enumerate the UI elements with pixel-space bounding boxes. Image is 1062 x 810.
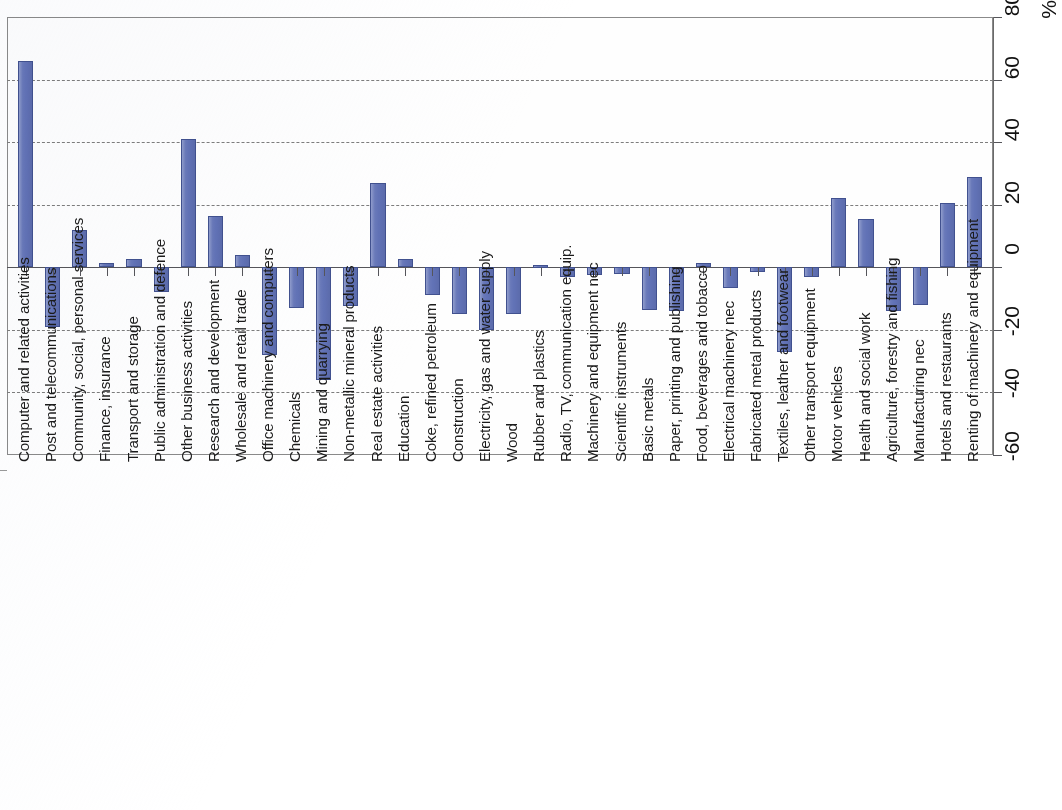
category-label: Scientific instruments (612, 322, 627, 462)
category-label: Office machinery and computers (260, 248, 275, 462)
category-tick (188, 267, 189, 276)
category-label: Fabricated metal products (748, 290, 763, 462)
category-label: Basic metals (640, 378, 655, 462)
category-tick (459, 267, 460, 276)
bar (940, 203, 955, 267)
category-tick (730, 267, 731, 276)
category-label: Radio, TV, communication equip. (558, 245, 573, 462)
category-tick (541, 267, 542, 276)
category-label: Finance, insurance (97, 336, 112, 462)
y-axis-spine (993, 17, 994, 455)
bar (126, 259, 141, 267)
category-label: Non-metallic mineral products (341, 265, 356, 462)
category-tick (215, 267, 216, 276)
category-tick (405, 267, 406, 276)
category-tick (920, 267, 921, 276)
category-label: Health and social work (856, 313, 871, 463)
y-axis-tick-label: 60 (1000, 56, 1024, 79)
bar (235, 255, 250, 268)
category-label: Wood (504, 423, 519, 462)
y-axis-tick-label: -20 (1000, 306, 1024, 336)
category-label: Real estate activities (368, 326, 383, 462)
category-tick (378, 267, 379, 276)
category-label: Agriculture, forestry and fishing (884, 258, 899, 462)
category-label: Community, social, personal services (70, 218, 85, 462)
y-axis-tick (993, 142, 1002, 143)
y-axis-tick-label: 40 (1000, 118, 1024, 141)
category-label: Other business activities (179, 301, 194, 462)
bar-chart: -60-40-20020406080 % Computer and relate… (0, 0, 1062, 810)
y-axis-tick-label: -40 (1000, 368, 1024, 398)
bar (18, 61, 33, 267)
bar (831, 198, 846, 267)
bar (208, 216, 223, 268)
y-axis-tick (993, 267, 1002, 268)
category-tick (432, 267, 433, 276)
category-label: Paper, printing and publishing (667, 266, 682, 462)
category-label: Coke, refined petroleum (423, 303, 438, 462)
category-tick (622, 267, 623, 276)
category-tick (134, 267, 135, 276)
bar (370, 183, 385, 267)
category-label: Machinery and equipment nec (585, 263, 600, 462)
category-label: Food, beverages and tobacco (694, 265, 709, 462)
category-label: Mining and quarrying (314, 323, 329, 462)
category-tick (839, 267, 840, 276)
y-axis-tick-label: 20 (1000, 181, 1024, 204)
category-label: Construction (450, 379, 465, 462)
category-label: Education (396, 396, 411, 462)
y-axis-unit-label: % (1037, 0, 1061, 19)
category-label: Hotels and restaurants (938, 312, 953, 462)
category-label: Textiles, leather and footwear (775, 269, 790, 462)
y-axis-tick-label: 80 (1000, 0, 1024, 16)
category-tick (297, 267, 298, 276)
bar (858, 219, 873, 267)
bar (181, 139, 196, 267)
category-tick (812, 267, 813, 276)
category-label: Motor vehicles (829, 366, 844, 462)
y-axis-tick-label: -60 (1000, 431, 1024, 461)
category-label: Public administration and defence (152, 239, 167, 462)
y-axis-tick-label: 0 (1000, 243, 1024, 255)
category-tick (947, 267, 948, 276)
category-label: Electricity, gas and water supply (477, 251, 492, 462)
category-label: Chemicals (287, 392, 302, 462)
y-axis-tick (993, 80, 1002, 81)
bar (398, 259, 413, 267)
category-label: Computer and related activities (16, 257, 31, 462)
category-label: Other transport equipment (802, 288, 817, 462)
category-label: Transport and storage (124, 316, 139, 462)
category-tick (324, 267, 325, 276)
category-label: Post and telecommunications (43, 268, 58, 462)
category-tick (242, 267, 243, 276)
category-label: Wholesale and retail trade (233, 289, 248, 462)
y-axis-tick (993, 205, 1002, 206)
category-tick (758, 267, 759, 276)
category-label: Rubber and plastics (531, 331, 546, 462)
category-labels: Computer and related activitiesPost and … (0, 462, 1062, 810)
category-tick (107, 267, 108, 276)
left-axis-stub (0, 470, 7, 487)
category-tick (649, 267, 650, 276)
category-label: Renting of machinery and equipment (965, 219, 980, 462)
y-axis-tick (993, 17, 1002, 18)
category-label: Manufacturing nec (911, 340, 926, 462)
category-label: Research and development (206, 280, 221, 462)
category-tick (514, 267, 515, 276)
category-label: Electrical machinery nec (721, 301, 736, 462)
category-tick (866, 267, 867, 276)
